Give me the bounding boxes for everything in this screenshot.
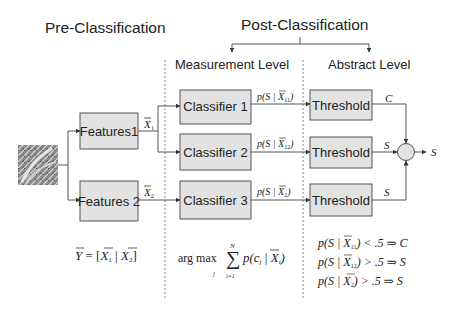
abstract-rule-2: p(S | X12) > .5 ⇒ S [317,255,406,269]
classifier3-box: Classifier 3 [180,181,251,219]
svg-text:p(S | X11): p(S | X11) [256,91,294,103]
classifier2-label: Classifier 2 [183,145,247,160]
features2-output: X 2 [143,186,154,199]
threshold3-label: Threshold [312,193,370,208]
svg-text:Y = [X1 | X2]: Y = [X1 | X2] [75,248,137,264]
classifier1-label: Classifier 1 [183,99,247,114]
post-classification-bracket [232,37,369,52]
classifier3-output-label: p(S | X2) [256,186,291,198]
threshold2-label: Threshold [312,145,370,160]
svg-text:∑: ∑ [226,247,240,270]
pre-classification-header: Pre-Classification [45,19,166,36]
svg-text:p(S | X2) > .5 ⇒ S: p(S | X2) > .5 ⇒ S [317,274,403,288]
threshold1-box: Threshold [310,90,372,120]
svg-text:p(S | X2): p(S | X2) [256,186,291,198]
classifier1-output-label: p(S | X11) [256,91,294,103]
abstract-rule-3: p(S | X2) > .5 ⇒ S [317,274,403,288]
abstract-rule-1: p(S | X11) < .5 ⇒ C [317,236,409,250]
post-classification-header: Post-Classification [241,16,369,33]
svg-text:i=1: i=1 [226,273,235,279]
threshold2-output: S [384,139,390,151]
threshold3-box: Threshold [310,184,372,216]
measurement-level-formula: arg max j ∑ N i=1 p(cj | Xi) [178,242,285,279]
threshold1-output: C [385,92,393,104]
abstract-level-formulas: p(S | X11) < .5 ⇒ C p(S | X12) > .5 ⇒ S … [317,236,409,288]
features2-label: Features 2 [78,194,140,209]
svg-text:1: 1 [151,125,154,131]
svg-text:N: N [229,242,235,250]
abstract-level-header: Abstract Level [328,57,410,72]
threshold1-to-fusion [372,104,406,143]
classification-diagram: Pre-Classification Post-Classification M… [0,0,455,310]
svg-text:arg max: arg max [178,251,217,265]
pre-classification-formula: Y = [X1 | X2] [75,248,137,264]
features1-output: X 1 [143,118,154,131]
classifier3-label: Classifier 3 [183,193,247,208]
threshold1-label: Threshold [312,98,370,113]
threshold2-box: Threshold [310,137,372,168]
fusion-node [398,144,415,161]
features1-label: Features1 [80,124,139,139]
features1-box: Features1 [80,113,139,149]
classifier2-output-label: p(S | X12) [256,138,294,150]
svg-text:j: j [212,270,215,278]
svg-text:2: 2 [151,193,154,199]
svg-text:p(S | X11) < .5 ⇒ C: p(S | X11) < .5 ⇒ C [317,236,409,250]
features2-box: Features 2 [78,181,140,221]
svg-text:p(S | X12) > .5 ⇒ S: p(S | X12) > .5 ⇒ S [317,255,406,269]
measurement-level-header: Measurement Level [175,57,289,72]
svg-text:p(S | X12): p(S | X12) [256,138,294,150]
fusion-output: S [431,146,437,158]
image-to-features-connector [58,131,80,200]
threshold3-output: S [384,186,390,198]
classifier2-box: Classifier 2 [180,134,251,170]
svg-text:p(cj | Xi): p(cj | Xi) [242,250,285,266]
classifier1-box: Classifier 1 [180,90,251,124]
